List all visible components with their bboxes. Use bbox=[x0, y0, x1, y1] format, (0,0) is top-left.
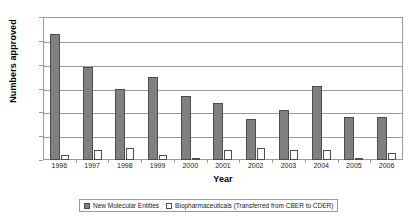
x-axis-tick-label: 2003 bbox=[272, 162, 305, 170]
bar-biopharmaceuticals bbox=[94, 150, 102, 160]
bar-new-molecular-entities bbox=[50, 34, 60, 160]
x-axis-tick-label: 1996 bbox=[43, 162, 76, 170]
bar-group bbox=[338, 17, 371, 160]
bar-new-molecular-entities bbox=[213, 103, 223, 160]
bar-new-molecular-entities bbox=[83, 67, 93, 160]
legend-swatch-nme-icon bbox=[84, 203, 90, 209]
x-axis-tick-label: 1998 bbox=[108, 162, 141, 170]
bar-group bbox=[370, 17, 403, 160]
bar-biopharmaceuticals bbox=[257, 148, 265, 160]
bar-new-molecular-entities bbox=[246, 119, 256, 160]
bar-group bbox=[141, 17, 174, 160]
bar-biopharmaceuticals bbox=[61, 155, 69, 160]
bar-biopharmaceuticals bbox=[126, 148, 134, 160]
x-axis-tick-label: 2004 bbox=[305, 162, 338, 170]
x-axis-tick-label: 1997 bbox=[76, 162, 109, 170]
x-axis-tick-label-group: 1996199719981999200020012002200320042005… bbox=[43, 162, 403, 174]
legend-item-new-molecular-entities[interactable]: New Molecular Entities bbox=[84, 202, 159, 209]
x-axis-tick-label: 2000 bbox=[174, 162, 207, 170]
bar-new-molecular-entities bbox=[344, 117, 354, 160]
x-axis-tick-label: 1999 bbox=[141, 162, 174, 170]
bar-biopharmaceuticals bbox=[192, 158, 200, 160]
bar-group bbox=[207, 17, 240, 160]
x-axis-tick-label: 2006 bbox=[370, 162, 403, 170]
bar-group bbox=[239, 17, 272, 160]
bar-new-molecular-entities bbox=[312, 86, 322, 160]
bar-biopharmaceuticals bbox=[323, 150, 331, 160]
bar-group bbox=[76, 17, 109, 160]
legend-item-biopharmaceuticals[interactable]: Biopharmaceuticals (Transferred from CBE… bbox=[166, 202, 333, 209]
bar-biopharmaceuticals bbox=[355, 158, 363, 160]
bar-group bbox=[174, 17, 207, 160]
bar-group bbox=[43, 17, 76, 160]
bars-layer bbox=[43, 17, 403, 160]
x-axis-tick-label: 2001 bbox=[207, 162, 240, 170]
bar-biopharmaceuticals bbox=[224, 150, 232, 160]
bar-group bbox=[272, 17, 305, 160]
x-axis-tick-label: 2005 bbox=[338, 162, 371, 170]
bar-chart: Numbers approved 0102030405060 199619971… bbox=[0, 0, 419, 220]
bar-biopharmaceuticals bbox=[388, 153, 396, 160]
bar-new-molecular-entities bbox=[115, 89, 125, 161]
legend-label: New Molecular Entities bbox=[93, 202, 159, 209]
bar-new-molecular-entities bbox=[279, 110, 289, 160]
chart-legend: New Molecular EntitiesBiopharmaceuticals… bbox=[79, 199, 338, 212]
bar-new-molecular-entities bbox=[181, 96, 191, 160]
legend-swatch-bio-icon bbox=[166, 203, 172, 209]
bar-group bbox=[305, 17, 338, 160]
y-axis-title: Numbers approved bbox=[8, 1, 18, 121]
x-axis-title: Year bbox=[43, 174, 403, 184]
bar-biopharmaceuticals bbox=[159, 155, 167, 160]
bar-group bbox=[108, 17, 141, 160]
y-axis-tick-mark bbox=[39, 160, 43, 161]
bar-biopharmaceuticals bbox=[290, 150, 298, 160]
bar-new-molecular-entities bbox=[148, 77, 158, 160]
bar-new-molecular-entities bbox=[377, 117, 387, 160]
legend-label: Biopharmaceuticals (Transferred from CBE… bbox=[175, 202, 333, 209]
x-axis-tick-label: 2002 bbox=[239, 162, 272, 170]
